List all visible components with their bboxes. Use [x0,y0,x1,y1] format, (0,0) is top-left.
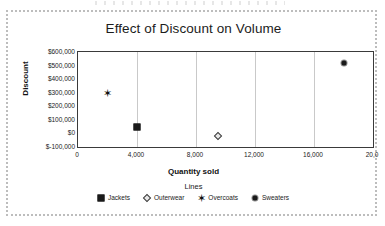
x-axis-tick-label: 20,0 [366,151,379,158]
legend-item-outerwear[interactable]: Outerwear [144,194,184,201]
data-point-overcoats: ✶ [103,88,112,97]
legend-item-label: Overcoats [208,194,238,201]
x-axis-tick-label: 0 [75,151,79,158]
y-axis-tick-labels: $600,000$500,000$400,000$300,000$200,000… [20,51,75,148]
legend-item-jackets[interactable]: Jackets [98,194,130,201]
x-axis-tick-label: 16,000 [303,151,323,158]
x-axis-tick-label: 4,000 [128,151,144,158]
legend-item-label: Sweaters [262,194,289,201]
star-marker-icon: ✶ [198,194,205,201]
y-axis-tick-label: $-100,000 [23,143,75,150]
y-axis-tick-label: $400,000 [23,75,75,82]
legend-item-sweaters[interactable]: Sweaters [252,194,289,201]
gridline-vertical [314,52,315,147]
gridline-vertical [196,52,197,147]
legend: JacketsOuterwear✶OvercoatsSweaters [8,194,379,201]
plot-area: ✶ [77,51,374,148]
gridline-vertical [255,52,256,147]
data-point-outerwear [214,132,222,140]
x-axis-tick-labels: 04,0008,00012,00016,00020,0 [77,151,374,163]
legend-item-label: Outerwear [154,194,184,201]
chart-container: Effect of Discount on Volume Discount $6… [6,10,377,216]
x-axis-tick-label: 12,000 [244,151,264,158]
y-axis-tick-label: $600,000 [23,48,75,55]
chart-title: Effect of Discount on Volume [8,21,379,36]
circle-marker-icon [252,194,259,201]
y-axis-tick-label: $0 [23,129,75,136]
x-axis-title: Quantity sold [8,167,379,176]
y-axis-tick-label: $300,000 [23,88,75,95]
gridline-vertical [137,52,138,147]
legend-title: Lines [8,182,379,191]
data-point-sweaters [341,60,346,65]
legend-item-overcoats[interactable]: ✶Overcoats [198,194,238,201]
x-axis-tick-label: 8,000 [187,151,203,158]
data-point-jackets [134,123,141,130]
square-marker-icon [98,194,105,201]
y-axis-tick-label: $100,000 [23,115,75,122]
y-axis-tick-label: $500,000 [23,61,75,68]
y-axis-tick-label: $200,000 [23,102,75,109]
diamond-marker-icon [144,194,151,201]
scan-artifact-strip [0,0,385,9]
legend-item-label: Jackets [108,194,130,201]
